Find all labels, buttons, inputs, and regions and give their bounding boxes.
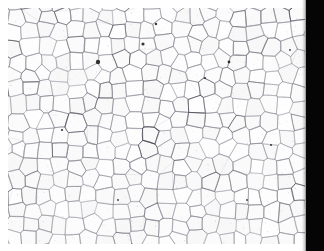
etch-pit bbox=[136, 69, 137, 70]
etch-pit bbox=[57, 106, 58, 107]
etch-pit bbox=[16, 164, 17, 165]
etch-pit bbox=[262, 134, 263, 135]
etch-pit bbox=[45, 188, 46, 189]
etch-pit bbox=[265, 222, 266, 223]
etch-pit bbox=[177, 163, 178, 164]
etch-pit bbox=[257, 105, 258, 106]
inclusion bbox=[204, 77, 206, 79]
etch-pit bbox=[42, 148, 43, 149]
etch-pit bbox=[153, 41, 154, 42]
etch-pit bbox=[229, 56, 230, 57]
etch-pit bbox=[187, 62, 188, 63]
etch-pit bbox=[148, 100, 149, 101]
etch-pit bbox=[177, 206, 178, 207]
etch-pit bbox=[185, 185, 186, 186]
etch-pit bbox=[230, 223, 231, 224]
etch-pit bbox=[249, 164, 250, 165]
etch-pit bbox=[45, 11, 46, 12]
etch-pit bbox=[68, 134, 69, 135]
etch-pit bbox=[37, 124, 38, 125]
etch-pit bbox=[134, 164, 135, 165]
etch-pit bbox=[82, 209, 83, 210]
etch-pit bbox=[153, 28, 154, 29]
etch-pit bbox=[233, 95, 234, 96]
etch-pit bbox=[247, 197, 248, 198]
etch-pit bbox=[148, 17, 149, 18]
etch-pit bbox=[296, 18, 297, 19]
etch-pit bbox=[75, 52, 76, 53]
etch-pit bbox=[217, 34, 218, 35]
etch-pit bbox=[152, 170, 153, 171]
grain bbox=[21, 230, 37, 244]
etch-pit bbox=[184, 91, 185, 92]
etch-pit bbox=[26, 207, 27, 208]
etch-pit bbox=[52, 221, 53, 222]
etch-pit bbox=[128, 88, 129, 89]
etch-pit bbox=[96, 71, 97, 72]
etch-pit bbox=[250, 218, 251, 219]
etch-pit bbox=[113, 144, 114, 145]
etch-pit bbox=[299, 33, 300, 34]
etch-pit bbox=[36, 36, 37, 37]
etch-pit bbox=[48, 22, 49, 23]
grain bbox=[52, 143, 68, 157]
etch-pit bbox=[158, 194, 159, 195]
etch-pit bbox=[197, 14, 198, 15]
etch-pit bbox=[177, 67, 178, 68]
etch-pit bbox=[65, 24, 66, 25]
etch-pit bbox=[253, 64, 254, 65]
etch-pit bbox=[103, 203, 104, 204]
etch-pit bbox=[26, 109, 27, 110]
grain bbox=[290, 19, 305, 37]
etch-pit bbox=[169, 236, 170, 237]
etch-pit bbox=[69, 36, 70, 37]
etch-pit bbox=[142, 170, 143, 171]
etch-pit bbox=[33, 123, 34, 124]
etch-pit bbox=[95, 192, 96, 193]
etch-pit bbox=[111, 159, 112, 160]
etch-pit bbox=[294, 31, 295, 32]
etch-pit bbox=[103, 239, 104, 240]
etch-pit bbox=[219, 80, 220, 81]
etch-pit bbox=[289, 176, 290, 177]
etch-pit bbox=[293, 162, 294, 163]
etch-pit bbox=[176, 187, 177, 188]
etch-pit bbox=[49, 180, 50, 181]
etch-pit bbox=[229, 230, 230, 231]
etch-pit bbox=[10, 85, 11, 86]
etch-pit bbox=[38, 208, 39, 209]
etch-pit bbox=[208, 201, 209, 202]
etch-pit bbox=[62, 216, 63, 217]
etch-pit bbox=[210, 74, 211, 75]
etch-pit bbox=[215, 221, 216, 222]
grain bbox=[246, 52, 263, 71]
etch-pit bbox=[122, 17, 123, 18]
etch-pit bbox=[157, 118, 158, 119]
etch-pit bbox=[115, 131, 116, 132]
etch-pit bbox=[89, 132, 90, 133]
etch-pit bbox=[160, 31, 161, 32]
etch-pit bbox=[202, 48, 203, 49]
etch-pit bbox=[43, 192, 44, 193]
etch-pit bbox=[193, 23, 194, 24]
etch-pit bbox=[290, 78, 291, 79]
etch-pit bbox=[89, 237, 90, 238]
etch-pit bbox=[171, 78, 172, 79]
etch-pit bbox=[88, 174, 89, 175]
etch-pit bbox=[258, 137, 259, 138]
etch-pit bbox=[161, 92, 162, 93]
etch-pit bbox=[156, 104, 157, 105]
etch-pit bbox=[59, 137, 60, 138]
etch-pit bbox=[161, 146, 162, 147]
etch-pit bbox=[91, 12, 92, 13]
etch-pit bbox=[207, 17, 208, 18]
etch-pit bbox=[89, 142, 90, 143]
etch-pit bbox=[86, 200, 87, 201]
etch-pit bbox=[295, 205, 296, 206]
etch-pit bbox=[214, 195, 215, 196]
etch-pit bbox=[123, 145, 124, 146]
etch-pit bbox=[252, 174, 253, 175]
etch-pit bbox=[83, 227, 84, 228]
etch-pit bbox=[41, 142, 42, 143]
etch-pit bbox=[46, 110, 47, 111]
